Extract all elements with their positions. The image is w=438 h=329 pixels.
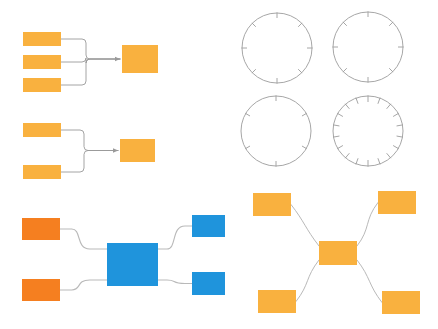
cluster-hub-amber-satellite-node-bottom-left[interactable] — [258, 290, 296, 313]
dial-8-tick-upper-right-tick-6 — [343, 68, 347, 72]
cluster-hub-blue-output-node-2[interactable] — [192, 272, 225, 295]
dial-18-tick-lower-right-tick-16 — [337, 113, 343, 116]
cluster-hub-blue-input-node-1[interactable] — [22, 218, 60, 240]
dial-8-tick-upper-left-tick-6 — [252, 69, 256, 73]
dial-18-tick-lower-right-tick-15 — [333, 125, 339, 126]
dial-18-tick-lower-right-tick-11 — [356, 158, 358, 164]
dial-18-tick-lower-right — [333, 96, 403, 167]
dial-8-tick-upper-right-tick-8 — [343, 22, 347, 26]
cluster-funnel-two-target-node[interactable] — [120, 139, 155, 162]
dial-8-tick-upper-left-tick-8 — [252, 23, 256, 27]
diagram-canvas — [0, 0, 438, 329]
dial-6-tick-lower-left-ring — [241, 96, 311, 166]
dial-6-tick-lower-left-tick-2 — [302, 113, 307, 116]
dial-8-tick-upper-right — [333, 12, 404, 83]
dial-6-tick-lower-left-tick-3 — [302, 146, 307, 149]
dial-6-tick-lower-left — [241, 96, 311, 167]
cluster-hub-amber-hub-node[interactable] — [319, 241, 357, 265]
dial-18-tick-lower-right-tick-6 — [397, 136, 403, 137]
dial-18-tick-lower-right-tick-12 — [345, 153, 349, 158]
dial-8-tick-upper-left — [242, 13, 313, 84]
cluster-hub-blue-output-node-1[interactable] — [192, 215, 225, 237]
dial-18-tick-lower-right-tick-7 — [393, 146, 399, 149]
cluster-funnel-three-source-node-3[interactable] — [23, 78, 61, 92]
cluster-hub-blue-hub-node[interactable] — [107, 243, 158, 286]
dial-18-tick-lower-right-tick-4 — [393, 113, 399, 116]
dial-18-tick-lower-right-tick-2 — [378, 98, 380, 104]
dial-8-tick-upper-left-tick-2 — [298, 23, 302, 27]
cluster-hub-amber-satellite-node-top-left[interactable] — [253, 193, 291, 216]
dial-18-tick-lower-right-ring — [333, 96, 403, 166]
cluster-funnel-three-target-node[interactable] — [122, 45, 158, 73]
dial-18-tick-lower-right-tick-3 — [387, 104, 391, 109]
cluster-funnel-three-source-node-1[interactable] — [23, 32, 61, 46]
dial-18-tick-lower-right-tick-17 — [345, 104, 349, 109]
dial-18-tick-lower-right-tick-13 — [337, 146, 343, 149]
cluster-funnel-three-source-node-2[interactable] — [23, 55, 61, 69]
cluster-hub-amber-satellite-node-top-right[interactable] — [378, 191, 416, 214]
dial-8-tick-upper-left-tick-4 — [298, 69, 302, 73]
dial-6-tick-lower-left-tick-6 — [245, 113, 250, 116]
cluster-funnel-two-source-node-2[interactable] — [23, 165, 61, 179]
dial-6-tick-lower-left-tick-5 — [245, 146, 250, 149]
dial-18-tick-lower-right-tick-8 — [387, 153, 391, 158]
dial-18-tick-lower-right-tick-5 — [397, 125, 403, 126]
dial-18-tick-lower-right-tick-9 — [378, 158, 380, 164]
cluster-hub-blue-input-node-2[interactable] — [22, 279, 60, 301]
dial-8-tick-upper-right-tick-4 — [389, 68, 393, 72]
dial-8-tick-upper-right-tick-2 — [389, 22, 393, 26]
cluster-funnel-two-source-node-1[interactable] — [23, 123, 61, 137]
dial-18-tick-lower-right-tick-18 — [356, 98, 358, 104]
dial-18-tick-lower-right-tick-14 — [333, 136, 339, 137]
cluster-hub-amber-satellite-node-bottom-right[interactable] — [382, 291, 420, 314]
